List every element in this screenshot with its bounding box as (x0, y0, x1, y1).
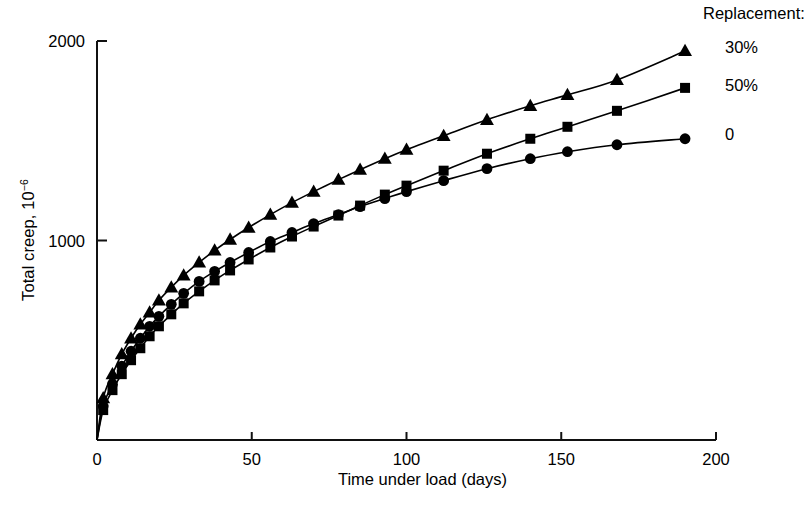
series-markers (96, 44, 692, 415)
marker-0 (154, 311, 165, 322)
marker-0 (401, 186, 412, 197)
marker-30-percent (223, 232, 237, 244)
marker-30-percent (177, 268, 191, 280)
marker-0 (98, 401, 109, 412)
marker-30-percent (678, 44, 692, 56)
marker-50-percent (562, 122, 572, 132)
marker-0 (116, 361, 127, 372)
marker-30-percent (208, 243, 222, 255)
marker-50-percent (612, 106, 622, 116)
marker-50-percent (179, 298, 189, 308)
marker-0 (265, 236, 276, 247)
marker-50-percent (145, 331, 155, 341)
x-tick-label-0: 0 (92, 450, 101, 468)
marker-0 (525, 153, 536, 164)
y-axis-title-text: Total creep, 10 (19, 191, 37, 301)
marker-0 (178, 288, 189, 299)
x-tick-label-50: 50 (243, 450, 261, 468)
marker-50-percent (439, 166, 449, 176)
y-axis-ticks (97, 41, 107, 241)
marker-30-percent (331, 173, 345, 185)
marker-30-percent (378, 152, 392, 164)
x-tick-label-200: 200 (702, 450, 730, 468)
marker-30-percent (263, 207, 277, 219)
marker-50-percent (166, 309, 176, 319)
marker-30-percent (610, 73, 624, 85)
marker-0 (194, 276, 205, 287)
marker-0 (308, 218, 319, 229)
marker-0 (482, 163, 493, 174)
y-axis-title: Total creep, 10−6 (14, 130, 42, 350)
x-axis-tick-labels: 050100150200 (92, 450, 729, 468)
y-axis-tick-labels: 10002000 (48, 32, 85, 250)
marker-0 (225, 257, 236, 268)
legend-label-0-percent: 0 (725, 125, 734, 144)
marker-0 (680, 133, 691, 144)
marker-0 (166, 299, 177, 310)
marker-50-percent (126, 355, 136, 365)
series-line-50-percent (97, 88, 685, 440)
axis-lines (97, 41, 716, 440)
x-axis-title: Time under load (days) (0, 470, 799, 489)
x-axis-ticks (97, 432, 716, 440)
marker-30-percent (353, 163, 367, 175)
x-tick-label-100: 100 (393, 450, 421, 468)
marker-30-percent (242, 220, 256, 232)
y-axis-title-exponent: −6 (18, 179, 30, 191)
marker-0 (333, 209, 344, 220)
series-curves (97, 51, 686, 440)
marker-0 (144, 321, 155, 332)
marker-0 (243, 247, 254, 258)
marker-50-percent (194, 286, 204, 296)
x-axis-title-text: Time under load (days) (338, 470, 507, 489)
marker-0 (135, 333, 146, 344)
x-tick-label-150: 150 (547, 450, 575, 468)
marker-30-percent (285, 195, 299, 207)
marker-50-percent (525, 134, 535, 144)
marker-50-percent (135, 343, 145, 353)
y-tick-label-1000: 1000 (48, 232, 85, 250)
marker-30-percent (400, 143, 414, 155)
marker-0 (562, 146, 573, 157)
marker-0 (287, 227, 298, 238)
marker-30-percent (192, 255, 206, 267)
marker-50-percent (210, 275, 220, 285)
marker-0 (379, 193, 390, 204)
series-line-30-percent (97, 51, 685, 440)
marker-0 (126, 346, 137, 357)
marker-0 (107, 379, 118, 390)
marker-30-percent (307, 184, 321, 196)
marker-0 (355, 201, 366, 212)
legend-label-30-percent: 30% (725, 38, 758, 57)
legend-label-50-percent: 50% (725, 76, 758, 95)
legend-title: Replacement: (703, 4, 805, 23)
marker-0 (209, 266, 220, 277)
marker-50-percent (154, 321, 164, 331)
marker-50-percent (482, 149, 492, 159)
y-tick-label-2000: 2000 (48, 32, 85, 50)
marker-0 (438, 175, 449, 186)
marker-0 (612, 139, 623, 150)
marker-50-percent (680, 83, 690, 93)
